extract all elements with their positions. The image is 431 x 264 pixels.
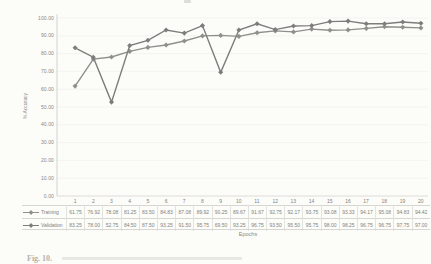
table-header-cell-epoch: 8 — [193, 196, 211, 205]
validation-data-point — [73, 45, 78, 50]
table-header-cell-epoch: 16 — [339, 196, 357, 205]
table-header-cell-epoch: 19 — [393, 196, 411, 205]
table-value-cell: 61.75 — [66, 205, 84, 218]
table-header-cell-epoch: 17 — [357, 196, 375, 205]
training-data-point — [400, 25, 405, 30]
legend-training: Training — [22, 205, 66, 218]
table-value-cell: 95.08 — [375, 205, 393, 218]
table-header-cell-epoch: 5 — [139, 196, 157, 205]
table-value-cell: 87.08 — [175, 205, 193, 218]
table-value-cell: 83.50 — [139, 205, 157, 218]
y-axis-tick-label: 90.00 — [0, 32, 54, 39]
validation-data-point — [182, 31, 187, 36]
table-value-cell: 92.75 — [266, 205, 284, 218]
table-header-cell-epoch: 14 — [302, 196, 320, 205]
training-data-point — [364, 26, 369, 31]
series-marker-icon — [23, 222, 39, 229]
scanned-figure: 0.0010.0020.0030.0040.0050.0060.0070.008… — [0, 0, 431, 264]
table-value-cell: 78.08 — [102, 205, 120, 218]
table-header-cell-epoch: 12 — [266, 196, 284, 205]
training-data-point — [145, 45, 150, 50]
training-data-point — [346, 27, 351, 32]
legend-label: Validation — [41, 222, 63, 228]
y-axis-tick-label: 80.00 — [0, 50, 54, 57]
y-axis-tick-label: 100.00 — [0, 15, 54, 22]
validation-data-point — [200, 23, 205, 28]
table-value-cell: 90.25 — [212, 205, 230, 218]
table-header-cell-epoch: 1 — [66, 196, 84, 205]
table-value-cell: 93.08 — [321, 205, 339, 218]
y-axis-tick-label: 10.00 — [0, 175, 54, 182]
table-value-cell: 89.67 — [230, 205, 248, 218]
table-value-cell: 93.75 — [302, 205, 320, 218]
table-value-cell: 91.67 — [248, 205, 266, 218]
y-axis-title: % Accuracy — [22, 76, 32, 136]
validation-data-point — [218, 70, 223, 75]
table-value-cell: 94.83 — [393, 205, 411, 218]
training-data-point — [218, 33, 223, 38]
table-value-cell: 93.33 — [339, 205, 357, 218]
table-header-cell-epoch: 11 — [248, 196, 266, 205]
validation-data-point — [346, 19, 351, 24]
validation-data-point — [255, 21, 260, 26]
table-header-cell-epoch: 9 — [212, 196, 230, 205]
validation-data-point — [236, 27, 241, 32]
validation-data-point — [418, 21, 423, 26]
x-axis-title: Epochs — [66, 231, 430, 237]
training-data-point — [109, 54, 114, 59]
table-header-cell-epoch: 7 — [175, 196, 193, 205]
table-value-cell: 89.92 — [193, 205, 211, 218]
table-value-cell: 81.25 — [121, 205, 139, 218]
validation-data-point — [309, 23, 314, 28]
validation-data-point — [127, 43, 132, 48]
validation-data-point — [327, 19, 332, 24]
figure-caption-illegible-text — [62, 257, 242, 260]
series-marker-icon — [23, 209, 39, 216]
y-axis-tick-label: 30.00 — [0, 139, 54, 146]
validation-data-point — [364, 21, 369, 26]
table-header-cell-epoch: 3 — [102, 196, 120, 205]
validation-data-point — [400, 19, 405, 24]
table-header-cell-epoch: 18 — [375, 196, 393, 205]
training-data-point — [255, 30, 260, 35]
training-data-point — [182, 38, 187, 43]
validation-data-point — [291, 23, 296, 28]
training-data-point — [164, 42, 169, 47]
table-value-cell: 84.83 — [157, 205, 175, 218]
data-table-bottom-border — [22, 229, 430, 230]
legend-label: Training — [41, 209, 59, 215]
table-header-cell-epoch: 4 — [121, 196, 139, 205]
y-axis-tick-label: 20.00 — [0, 157, 54, 164]
validation-series-line — [75, 21, 421, 102]
training-data-point — [418, 25, 423, 30]
table-value-cell: 92.17 — [284, 205, 302, 218]
table-value-cell: 94.17 — [357, 205, 375, 218]
table-header-cell-epoch: 15 — [321, 196, 339, 205]
table-value-cell: 76.92 — [84, 205, 102, 218]
y-axis-tick-label: 70.00 — [0, 68, 54, 75]
figure-caption-partial: Fig. 10. — [27, 254, 52, 263]
validation-data-point — [109, 100, 114, 105]
table-header-cell-epoch: 13 — [284, 196, 302, 205]
validation-data-point — [382, 21, 387, 26]
table-corner-cell — [22, 196, 66, 205]
table-header-cell-epoch: 6 — [157, 196, 175, 205]
training-data-point — [200, 33, 205, 38]
table-header-cell-epoch: 10 — [230, 196, 248, 205]
training-data-point — [327, 28, 332, 33]
table-header-cell-epoch: 20 — [412, 196, 430, 205]
table-value-cell: 94.42 — [412, 205, 430, 218]
data-table: 1234567891011121314151617181920Training6… — [22, 196, 430, 231]
table-header-cell-epoch: 2 — [84, 196, 102, 205]
training-data-point — [291, 29, 296, 34]
